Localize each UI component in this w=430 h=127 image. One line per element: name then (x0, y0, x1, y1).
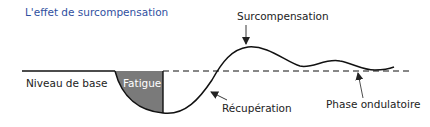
supercompensation-label: Surcompensation (237, 10, 329, 22)
baseline-label: Niveau de base (26, 77, 107, 89)
wave-phase-label: Phase ondulatoire (326, 98, 420, 110)
recovery-arrow (211, 92, 227, 100)
supercompensation-diagram: L'effet de surcompensation Niveau de bas… (0, 0, 430, 127)
recovery-label: Récupération (222, 102, 292, 114)
wave-phase-arrow (358, 73, 363, 98)
diagram-title: L'effet de surcompensation (25, 6, 168, 18)
fatigue-label: Fatigue (123, 77, 161, 89)
